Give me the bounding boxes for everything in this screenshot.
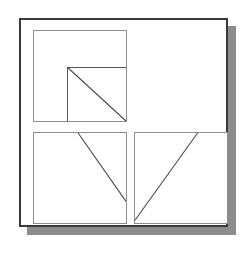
figure-canvas	[0, 0, 247, 260]
panel-top-left	[33, 30, 127, 122]
panel-bottom-left-diagonals	[34, 133, 126, 223]
panel-bottom-right-diagonals	[135, 133, 227, 223]
panel-bottom-left	[33, 132, 127, 224]
inner-sub-square	[67, 67, 126, 121]
outer-frame	[19, 18, 228, 227]
panel-bottom-right	[134, 132, 228, 224]
descending-diagonal-line	[78, 133, 126, 201]
ascending-diagonal-line	[135, 133, 198, 220]
